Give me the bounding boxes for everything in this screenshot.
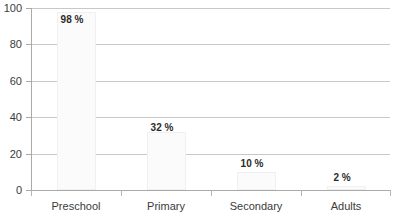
ytick-mark-80 (26, 44, 31, 45)
category-label-secondary: Secondary (211, 200, 301, 213)
bar-value-label-secondary: 10 % (217, 158, 287, 169)
category-label-adults: Adults (301, 200, 391, 213)
bar-chart: 100 80 60 40 20 0 98 % 32 % 10 % 2 % Pre… (0, 0, 400, 223)
ytick-label-0: 0 (16, 185, 22, 196)
bar-adults[interactable] (327, 186, 366, 190)
category-label-preschool: Preschool (31, 200, 121, 213)
ytick-mark-100 (26, 8, 31, 9)
category-label-primary: Primary (121, 200, 211, 213)
ytick-label-100: 100 (4, 3, 22, 14)
xtick-mark-0 (31, 190, 32, 196)
ytick-label-80: 80 (10, 39, 22, 50)
plot-area (31, 8, 390, 190)
bar-value-label-preschool: 98 % (37, 14, 107, 25)
ytick-label-60: 60 (10, 76, 22, 87)
ytick-mark-20 (26, 154, 31, 155)
ytick-label-20: 20 (10, 149, 22, 160)
ytick-mark-60 (26, 81, 31, 82)
bar-secondary[interactable] (237, 172, 276, 190)
xtick-mark-4 (390, 190, 391, 196)
gridline-100 (31, 8, 390, 9)
value-axis (31, 8, 32, 191)
bar-preschool[interactable] (57, 12, 96, 190)
xtick-mark-3 (301, 190, 302, 196)
xtick-mark-2 (211, 190, 212, 196)
ytick-label-40: 40 (10, 112, 22, 123)
bar-value-label-adults: 2 % (307, 172, 377, 183)
ytick-mark-40 (26, 117, 31, 118)
xtick-mark-1 (121, 190, 122, 196)
bar-value-label-primary: 32 % (127, 122, 197, 133)
bar-primary[interactable] (147, 132, 186, 190)
